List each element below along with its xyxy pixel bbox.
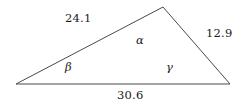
- angle-label-gamma: γ: [166, 62, 173, 74]
- triangle-figure: 24.1 12.9 30.6 α β γ: [0, 0, 245, 110]
- angle-label-beta: β: [65, 62, 72, 74]
- angle-label-alpha: α: [136, 35, 144, 47]
- side-length-label-b: 12.9: [206, 28, 232, 40]
- triangle-outline: [16, 7, 230, 84]
- side-length-label-c: 30.6: [117, 90, 143, 102]
- side-length-label-a: 24.1: [65, 13, 91, 25]
